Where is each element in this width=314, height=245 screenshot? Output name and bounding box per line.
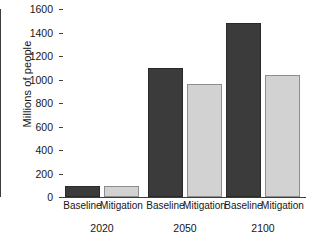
y-axis-tick-label: 200 <box>35 169 53 179</box>
bar-2020-baseline <box>65 186 100 197</box>
y-axis-tick-label: 1200 <box>30 51 53 61</box>
y-axis-tick-label: 600 <box>35 122 53 132</box>
x-axis-series-label: Mitigation <box>255 200 310 212</box>
bar-2100-mitigation <box>265 75 300 197</box>
x-axis-line <box>59 197 306 198</box>
y-axis-tick-label: 800 <box>35 98 53 108</box>
bars-layer <box>60 9 306 197</box>
y-axis-tick-label: 400 <box>35 145 53 155</box>
x-axis-group-label: 2020 <box>72 222 132 234</box>
y-axis-tick-label: 1000 <box>30 75 53 85</box>
x-axis-group-labels: 202020502100 <box>59 222 311 236</box>
x-axis-group-label: 2050 <box>155 222 215 234</box>
y-axis-tick-label: 1400 <box>30 28 53 38</box>
y-axis-tick-label: 1600 <box>30 4 53 14</box>
bar-2050-mitigation <box>187 84 222 197</box>
y-axis-tick-label: 0 <box>47 192 53 202</box>
bar-2100-baseline <box>226 23 261 197</box>
bar-2050-baseline <box>148 68 183 197</box>
y-axis-tick-labels: 02004006008001000120014001600 <box>19 0 53 245</box>
bar-chart: Millions of people 020040060080010001200… <box>0 0 314 245</box>
bar-2020-mitigation <box>104 186 139 197</box>
y-axis-line <box>0 9 1 197</box>
x-axis-group-label: 2100 <box>233 222 293 234</box>
x-axis-series-labels: BaselineMitigationBaselineMitigationBase… <box>59 200 311 214</box>
